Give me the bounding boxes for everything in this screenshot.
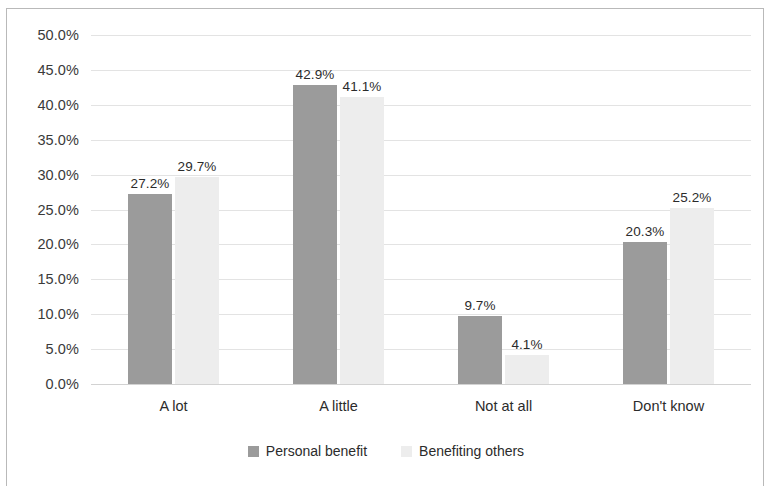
x-axis-tick-label: A little [319,398,358,414]
legend-swatch-icon [401,446,412,457]
plot-area: 27.2%29.7%42.9%41.1%9.7%4.1%20.3%25.2% [91,35,751,384]
bar-value-label: 42.9% [296,67,335,82]
bar-value-label: 27.2% [131,176,170,191]
y-axis-tick-label: 45.0% [37,62,79,78]
legend-item[interactable]: Personal benefit [248,443,367,459]
y-axis-tick-label: 15.0% [37,271,79,287]
bar-value-label: 29.7% [178,159,217,174]
y-axis-tick-label: 50.0% [37,27,79,43]
legend-label: Benefiting others [419,443,524,459]
gridline [91,384,751,385]
bar-1[interactable] [175,177,219,384]
bar-1[interactable] [670,208,714,384]
bar-value-label: 4.1% [511,337,542,352]
y-axis-tick-label: 40.0% [37,97,79,113]
bar-value-label: 20.3% [626,224,665,239]
bar-value-label: 9.7% [464,298,495,313]
bar-1[interactable] [340,97,384,384]
y-axis: 0.0%5.0%10.0%15.0%20.0%25.0%30.0%35.0%40… [7,35,85,384]
bar-0[interactable] [623,242,667,384]
x-axis-tick-label: Not at all [475,398,532,414]
bar-group: 9.7%4.1% [458,35,549,384]
y-axis-tick-label: 10.0% [37,306,79,322]
bar-value-label: 41.1% [343,79,382,94]
legend-item[interactable]: Benefiting others [401,443,524,459]
chart-legend: Personal benefitBenefiting others [7,443,765,459]
bar-1[interactable] [505,355,549,384]
bar-0[interactable] [458,316,502,384]
y-axis-tick-label: 20.0% [37,236,79,252]
bar-value-label: 25.2% [673,190,712,205]
y-axis-tick-label: 30.0% [37,167,79,183]
x-axis-tick-label: A lot [159,398,187,414]
legend-swatch-icon [248,446,259,457]
x-axis-tick-label: Don't know [633,398,704,414]
bar-0[interactable] [293,85,337,384]
chart-frame: 0.0%5.0%10.0%15.0%20.0%25.0%30.0%35.0%40… [6,8,764,486]
x-axis: A lotA littleNot at allDon't know [91,392,751,422]
bar-0[interactable] [128,194,172,384]
bar-group: 27.2%29.7% [128,35,219,384]
y-axis-tick-label: 25.0% [37,202,79,218]
y-axis-tick-label: 35.0% [37,132,79,148]
y-axis-tick-label: 5.0% [46,341,79,357]
bar-group: 42.9%41.1% [293,35,384,384]
y-axis-tick-label: 0.0% [46,376,79,392]
legend-label: Personal benefit [266,443,367,459]
bar-group: 20.3%25.2% [623,35,714,384]
